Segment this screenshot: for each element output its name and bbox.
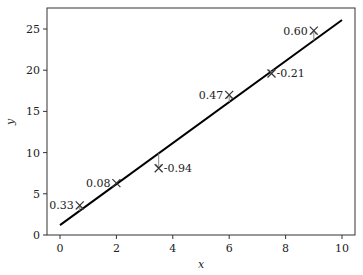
y-tick-label: 10 <box>26 147 40 160</box>
point-annotation: 0.33 <box>49 199 74 212</box>
x-tick-label: 0 <box>57 242 64 255</box>
y-tick-label: 0 <box>33 229 40 242</box>
scatter-chart: 02468100510152025xy0.330.08-0.940.47-0.2… <box>0 0 363 275</box>
y-tick-label: 25 <box>26 23 40 36</box>
x-tick-label: 10 <box>335 242 349 255</box>
point-annotation: 0.60 <box>283 25 308 38</box>
x-tick-label: 2 <box>113 242 120 255</box>
y-axis-label: y <box>4 118 17 126</box>
point-annotation: -0.21 <box>277 67 305 80</box>
x-tick-label: 8 <box>282 242 289 255</box>
y-tick-label: 20 <box>26 64 40 77</box>
x-tick-label: 4 <box>169 242 176 255</box>
point-annotation: 0.47 <box>199 89 224 102</box>
x-axis-label: x <box>198 258 205 271</box>
fit-line <box>60 20 342 225</box>
y-tick-label: 5 <box>33 188 40 201</box>
y-tick-label: 15 <box>26 105 40 118</box>
point-annotation: 0.08 <box>86 177 111 190</box>
point-annotation: -0.94 <box>164 162 192 175</box>
x-tick-label: 6 <box>226 242 233 255</box>
